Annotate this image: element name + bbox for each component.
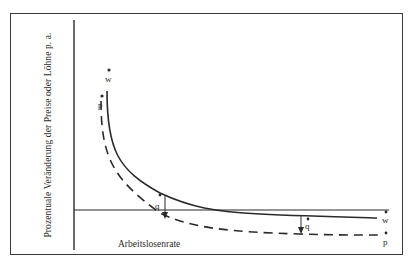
label-w-top: w	[105, 74, 112, 84]
label-w-right: w	[382, 215, 389, 225]
q-dot-right	[307, 218, 310, 221]
price-curve-p	[101, 101, 378, 235]
w-marker-dot	[107, 68, 110, 71]
label-p-top: p	[98, 100, 103, 110]
arrow-head-icon	[298, 227, 304, 234]
label-q-left: q	[155, 201, 160, 211]
wage-curve-w	[107, 91, 377, 218]
p-marker-dot	[100, 94, 103, 97]
label-p-right: p	[383, 237, 388, 247]
phillips-curve-diagram: w p q q w p	[0, 0, 413, 264]
w-right-dot	[385, 211, 388, 214]
p-right-dot	[385, 232, 388, 235]
q-dot-left	[159, 194, 162, 197]
label-q-right: q	[305, 221, 310, 231]
